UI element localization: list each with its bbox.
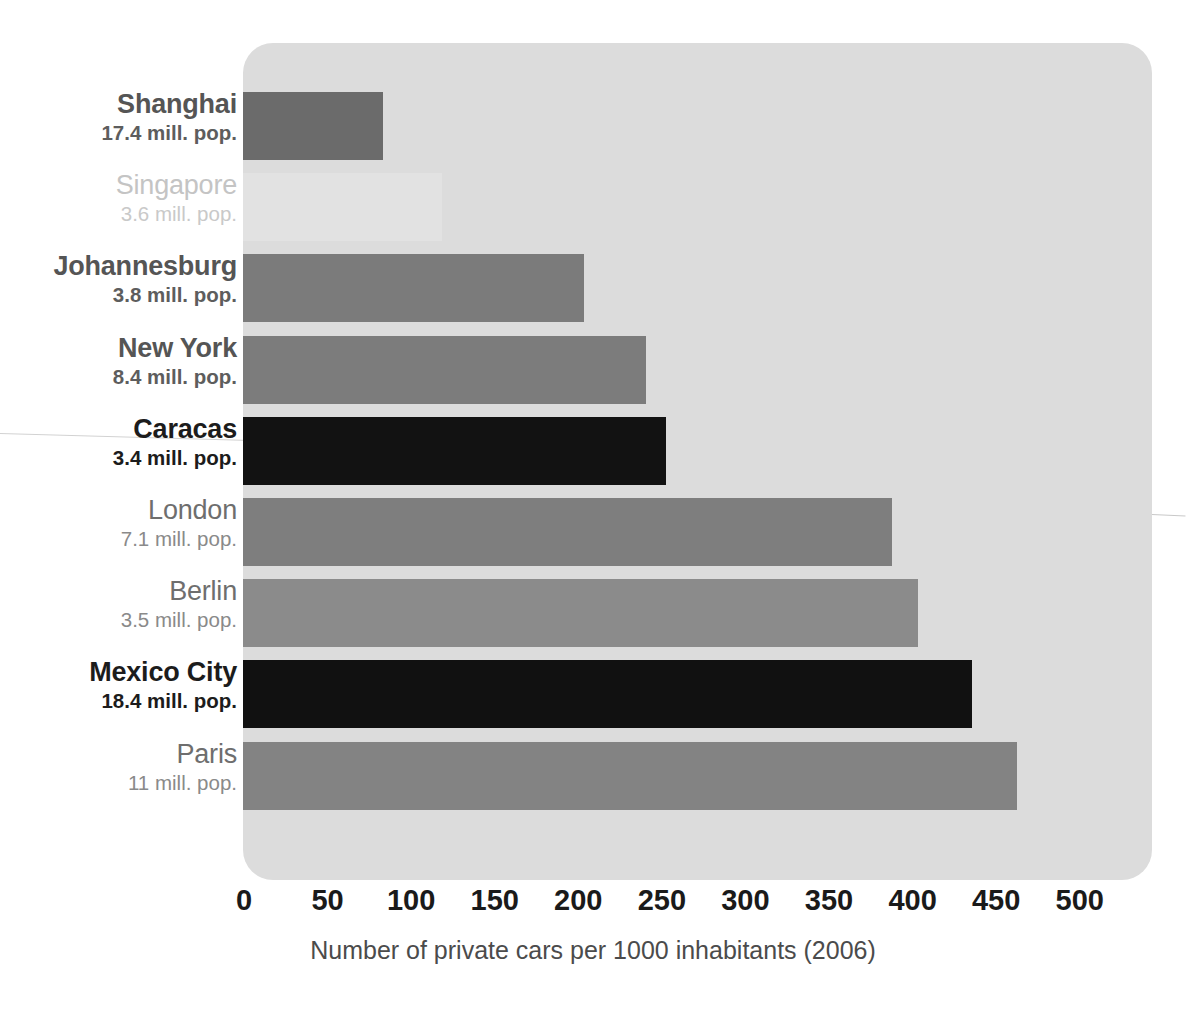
bar-row: Johannesburg3.8 mill. pop. [0, 254, 1186, 322]
bar-category-label: Shanghai17.4 mill. pop. [0, 91, 237, 144]
x-axis-tick-label: 150 [471, 884, 519, 917]
city-population: 17.4 mill. pop. [0, 123, 237, 144]
x-axis-tick-label: 300 [721, 884, 769, 917]
city-name: Caracas [0, 416, 237, 443]
city-population: 7.1 mill. pop. [0, 529, 237, 550]
bar-category-label: Paris11 mill. pop. [0, 741, 237, 794]
city-name: Singapore [0, 172, 237, 199]
city-population: 18.4 mill. pop. [0, 691, 237, 712]
bar [243, 173, 442, 241]
bar-category-label: London7.1 mill. pop. [0, 497, 237, 550]
bar [243, 92, 383, 160]
city-population: 3.6 mill. pop. [0, 204, 237, 225]
bar [243, 498, 892, 566]
bar-category-label: Caracas3.4 mill. pop. [0, 416, 237, 469]
bar-row: Mexico City18.4 mill. pop. [0, 660, 1186, 728]
bar-row: Berlin3.5 mill. pop. [0, 579, 1186, 647]
bar-rows-container: Shanghai17.4 mill. pop.Singapore3.6 mill… [0, 0, 1186, 1010]
bar-category-label: Mexico City18.4 mill. pop. [0, 659, 237, 712]
bar-row: Singapore3.6 mill. pop. [0, 173, 1186, 241]
city-population: 8.4 mill. pop. [0, 367, 237, 388]
x-axis-tick-label: 500 [1056, 884, 1104, 917]
bar-category-label: New York8.4 mill. pop. [0, 335, 237, 388]
bar [243, 417, 666, 485]
bar-row: New York8.4 mill. pop. [0, 336, 1186, 404]
city-population: 11 mill. pop. [0, 773, 237, 794]
bar-category-label: Johannesburg3.8 mill. pop. [0, 253, 237, 306]
bar-row: Caracas3.4 mill. pop. [0, 417, 1186, 485]
bar-row: Shanghai17.4 mill. pop. [0, 92, 1186, 160]
x-axis-tick-label: 100 [387, 884, 435, 917]
bar [243, 742, 1017, 810]
bar-category-label: Berlin3.5 mill. pop. [0, 578, 237, 631]
city-population: 3.5 mill. pop. [0, 610, 237, 631]
city-population: 3.8 mill. pop. [0, 285, 237, 306]
x-axis-tick-label: 400 [888, 884, 936, 917]
bar-row: London7.1 mill. pop. [0, 498, 1186, 566]
city-name: Berlin [0, 578, 237, 605]
bar-category-label: Singapore3.6 mill. pop. [0, 172, 237, 225]
x-axis-tick-label: 450 [972, 884, 1020, 917]
bar [243, 660, 972, 728]
city-name: London [0, 497, 237, 524]
x-axis-tick-label: 200 [554, 884, 602, 917]
city-name: Johannesburg [0, 253, 237, 280]
city-name: Paris [0, 741, 237, 768]
city-name: New York [0, 335, 237, 362]
bar [243, 579, 918, 647]
x-axis-tick-label: 250 [638, 884, 686, 917]
x-axis-tick-label: 350 [805, 884, 853, 917]
bar [243, 336, 646, 404]
x-axis-title: Number of private cars per 1000 inhabita… [0, 936, 1186, 965]
city-population: 3.4 mill. pop. [0, 448, 237, 469]
city-name: Mexico City [0, 659, 237, 686]
bar [243, 254, 584, 322]
x-axis-tick-label: 50 [311, 884, 343, 917]
x-axis-tick-label: 0 [236, 884, 252, 917]
city-name: Shanghai [0, 91, 237, 118]
bar-row: Paris11 mill. pop. [0, 742, 1186, 810]
x-axis: 050100150200250300350400450500 [0, 884, 1186, 922]
